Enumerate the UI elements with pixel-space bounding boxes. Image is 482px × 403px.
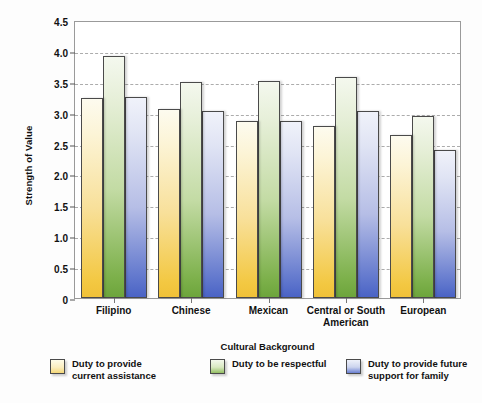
bar <box>125 97 147 298</box>
legend-swatch <box>210 359 225 374</box>
y-tick-label: 2.0 <box>54 171 68 182</box>
bar <box>412 116 434 298</box>
y-axis-title: Strength of Value <box>23 76 34 256</box>
x-tick-mark <box>191 298 192 303</box>
legend-swatch <box>346 359 361 374</box>
x-tick-mark <box>346 298 347 303</box>
legend-label: Duty to provide current assistance <box>72 358 156 381</box>
bar <box>434 150 456 298</box>
legend-item: Duty to provide future support for famil… <box>346 358 467 381</box>
x-tick-label: European <box>358 305 482 317</box>
legend-swatch <box>50 359 65 374</box>
bars-layer <box>75 22 460 298</box>
bar <box>335 77 357 298</box>
y-tick-label: 4.0 <box>54 47 68 58</box>
bar <box>390 135 412 298</box>
bar <box>202 111 224 298</box>
x-tick-mark <box>269 298 270 303</box>
y-tick-label: 1.5 <box>54 202 68 213</box>
bar-group <box>313 22 379 298</box>
bar <box>357 111 379 298</box>
bar <box>280 121 302 298</box>
bar <box>103 56 125 298</box>
x-tick-mark <box>423 298 424 303</box>
y-tick-label: 3.0 <box>54 109 68 120</box>
bar-group <box>236 22 302 298</box>
y-tick-label: 0 <box>62 295 68 306</box>
y-tick-label: 1.0 <box>54 233 68 244</box>
bar <box>180 82 202 298</box>
plot-area: 4.54.03.53.02.52.01.51.00.50 FilipinoChi… <box>74 21 461 299</box>
y-tick-mark <box>70 300 75 301</box>
bar <box>236 121 258 298</box>
bar <box>81 98 103 298</box>
bar <box>313 126 335 298</box>
bar <box>158 109 180 298</box>
y-tick-label: 3.5 <box>54 78 68 89</box>
legend-item: Duty to be respectful <box>210 358 327 374</box>
legend-label: Duty to provide future support for famil… <box>368 358 467 381</box>
x-axis-title: Cultural Background <box>74 341 461 352</box>
legend: Duty to provide current assistanceDuty t… <box>50 358 470 392</box>
bar <box>258 81 280 298</box>
bar-group <box>81 22 147 298</box>
bar-group <box>158 22 224 298</box>
bar-chart: Strength of Value 4.54.03.53.02.52.01.51… <box>0 0 482 403</box>
legend-label: Duty to be respectful <box>232 358 327 370</box>
x-tick-mark <box>114 298 115 303</box>
y-tick-label: 2.5 <box>54 140 68 151</box>
y-tick-label: 4.5 <box>54 17 68 28</box>
bar-group <box>390 22 456 298</box>
y-tick-label: 0.5 <box>54 264 68 275</box>
legend-item: Duty to provide current assistance <box>50 358 156 381</box>
